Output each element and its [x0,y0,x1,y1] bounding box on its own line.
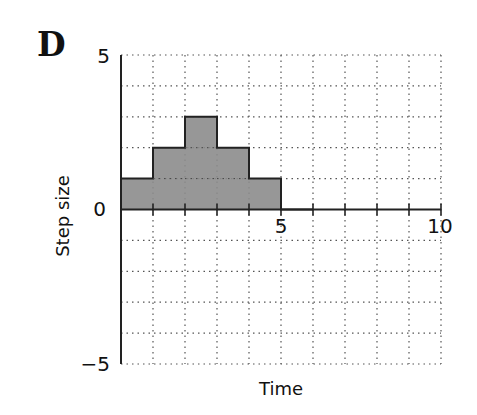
step-bars [121,117,313,210]
plot-area [0,0,477,415]
step-bar [121,179,153,210]
axes [121,55,441,364]
step-bar [249,179,281,210]
step-bar [217,148,249,210]
step-bar [153,148,185,210]
step-bar [185,117,217,210]
